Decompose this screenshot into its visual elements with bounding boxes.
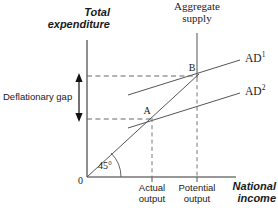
point-a-label: A (139, 105, 155, 116)
ad2-superscript: 2 (262, 83, 266, 92)
deflationary-gap-label: Deflationary gap (3, 92, 78, 103)
aggregate-supply-label: Aggregate supply (157, 0, 237, 25)
y-axis-title: Total expenditure (6, 6, 110, 31)
ad1-text: AD (245, 52, 262, 64)
ad1-superscript: 1 (262, 50, 266, 59)
economics-diagram: Total expenditure Aggregate supply Defla… (0, 0, 278, 212)
ad1-label: AD1 (245, 52, 265, 65)
origin-label: 0 (78, 175, 83, 186)
ad2-text: AD (245, 85, 262, 97)
x-axis-title: National income (212, 180, 276, 205)
ad2-label: AD2 (245, 85, 265, 98)
point-b-label: B (184, 62, 200, 73)
angle-label: 45° (98, 160, 112, 171)
angle-arc (111, 153, 121, 177)
